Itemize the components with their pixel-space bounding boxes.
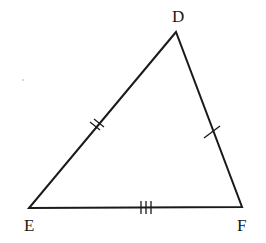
stray-dot [22, 79, 23, 80]
vertex-label-f: F [237, 217, 246, 234]
vertex-label-e: E [24, 217, 34, 234]
triangle-def [29, 32, 242, 208]
triangle-def-diagram [0, 0, 266, 243]
vertex-label-d: D [172, 8, 184, 25]
